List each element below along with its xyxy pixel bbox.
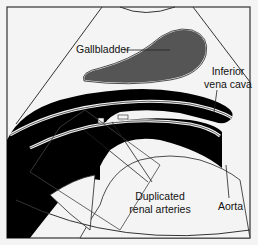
label-renal-line1: Duplicated [125, 190, 195, 202]
label-aorta: Aorta [218, 200, 243, 212]
label-gallbladder: Gallbladder [76, 43, 130, 55]
anatomy-diagram: Gallbladder Inferior vena cava Duplicate… [0, 0, 258, 245]
label-ivc-line1: Inferior [201, 65, 255, 77]
label-renal-line2: renal arteries [118, 203, 202, 215]
renal-artery-stub-2 [118, 115, 128, 119]
label-ivc-line2: vena cava [198, 78, 258, 90]
